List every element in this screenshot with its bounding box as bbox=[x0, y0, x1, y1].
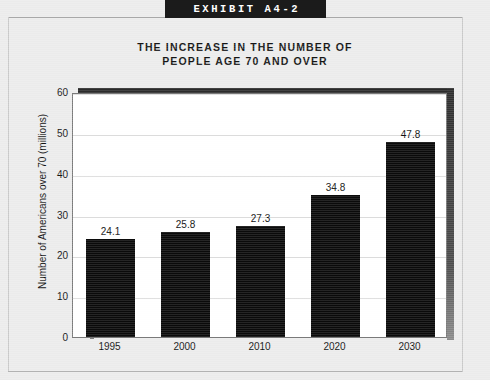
bar bbox=[86, 239, 135, 337]
y-tick-mark bbox=[90, 338, 94, 339]
y-tick-label: 30 bbox=[28, 211, 68, 221]
y-tick-label: 40 bbox=[28, 170, 68, 180]
y-tick-label: 50 bbox=[28, 129, 68, 139]
page-rule-right bbox=[462, 17, 463, 372]
bar-value-label: 34.8 bbox=[312, 182, 360, 193]
x-tick-label: 2010 bbox=[232, 341, 288, 352]
y-tick-label: 20 bbox=[28, 251, 68, 261]
exhibit-page: EXHIBIT A4-2 THE INCREASE IN THE NUMBER … bbox=[0, 0, 490, 380]
y-tick-label: 10 bbox=[28, 292, 68, 302]
plot-area: 24.125.827.334.847.8 bbox=[72, 93, 447, 338]
x-axis-ticks: 19952000201020202030 bbox=[72, 341, 447, 357]
bar bbox=[386, 142, 435, 337]
bar-value-label: 27.3 bbox=[237, 213, 285, 224]
y-tick-label: 60 bbox=[28, 88, 68, 98]
page-rule-bottom bbox=[8, 371, 462, 372]
bars: 24.125.827.334.847.8 bbox=[73, 94, 446, 337]
y-tick-label: 0 bbox=[28, 333, 68, 343]
x-tick-label: 1995 bbox=[82, 341, 138, 352]
bar bbox=[236, 226, 285, 337]
bar-value-label: 24.1 bbox=[87, 226, 135, 237]
plot-frame-shadow-right bbox=[447, 88, 454, 340]
bar bbox=[311, 195, 360, 337]
page-rule-left bbox=[8, 17, 9, 372]
x-tick-label: 2000 bbox=[157, 341, 213, 352]
bar-value-label: 47.8 bbox=[387, 129, 435, 140]
y-axis-title: Number of Americans over 70 (millions) bbox=[37, 82, 48, 322]
chart-title: THE INCREASE IN THE NUMBER OF PEOPLE AGE… bbox=[0, 40, 490, 68]
chart-title-line-2: PEOPLE AGE 70 AND OVER bbox=[0, 54, 490, 68]
chart-title-line-1: THE INCREASE IN THE NUMBER OF bbox=[0, 40, 490, 54]
exhibit-tab-label: EXHIBIT A4-2 bbox=[165, 0, 326, 18]
bar bbox=[161, 232, 210, 337]
bar-value-label: 25.8 bbox=[162, 219, 210, 230]
x-tick-label: 2020 bbox=[307, 341, 363, 352]
x-tick-label: 2030 bbox=[382, 341, 438, 352]
